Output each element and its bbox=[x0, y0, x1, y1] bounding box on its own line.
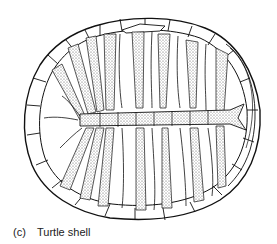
caption-label: (c) bbox=[13, 226, 37, 238]
caption-text: Turtle shell bbox=[37, 226, 90, 238]
figure-caption: (c)Turtle shell bbox=[13, 226, 90, 238]
turtle-shell-figure: (c)Turtle shell bbox=[0, 0, 277, 244]
turtle-shell-drawing bbox=[0, 0, 277, 244]
